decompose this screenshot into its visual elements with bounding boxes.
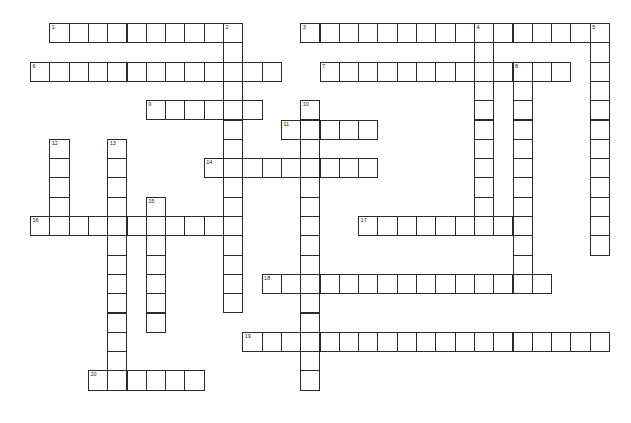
- crossword-cell[interactable]: [397, 332, 417, 352]
- crossword-cell[interactable]: [358, 23, 378, 43]
- crossword-cell[interactable]: [107, 274, 127, 294]
- crossword-cell[interactable]: [590, 62, 610, 82]
- crossword-cell[interactable]: [416, 274, 436, 294]
- crossword-cell[interactable]: [223, 139, 243, 159]
- crossword-cell[interactable]: [49, 62, 69, 82]
- crossword-cell[interactable]: [165, 370, 185, 390]
- crossword-cell[interactable]: [397, 23, 417, 43]
- crossword-cell[interactable]: [127, 370, 147, 390]
- crossword-cell[interactable]: [358, 120, 378, 140]
- crossword-cell[interactable]: [300, 255, 320, 275]
- crossword-cell[interactable]: [339, 23, 359, 43]
- crossword-cell[interactable]: [204, 62, 224, 82]
- crossword-cell[interactable]: 19: [242, 332, 262, 352]
- crossword-cell[interactable]: [513, 274, 533, 294]
- crossword-cell[interactable]: 16: [30, 216, 50, 236]
- crossword-cell[interactable]: [223, 158, 243, 178]
- crossword-cell[interactable]: [416, 332, 436, 352]
- crossword-cell[interactable]: [262, 158, 282, 178]
- crossword-cell[interactable]: 13: [107, 139, 127, 159]
- crossword-cell[interactable]: [532, 274, 552, 294]
- crossword-cell[interactable]: [474, 100, 494, 120]
- crossword-cell[interactable]: [532, 23, 552, 43]
- crossword-cell[interactable]: [435, 216, 455, 236]
- crossword-cell[interactable]: [88, 216, 108, 236]
- crossword-cell[interactable]: [107, 351, 127, 371]
- crossword-cell[interactable]: [590, 158, 610, 178]
- crossword-cell[interactable]: 12: [49, 139, 69, 159]
- crossword-cell[interactable]: [590, 216, 610, 236]
- crossword-cell[interactable]: [513, 332, 533, 352]
- crossword-cell[interactable]: [397, 62, 417, 82]
- crossword-cell[interactable]: [300, 216, 320, 236]
- crossword-cell[interactable]: [300, 274, 320, 294]
- crossword-cell[interactable]: [493, 62, 513, 82]
- crossword-cell[interactable]: [107, 370, 127, 390]
- crossword-cell[interactable]: [300, 332, 320, 352]
- crossword-cell[interactable]: [474, 216, 494, 236]
- crossword-cell[interactable]: [551, 23, 571, 43]
- crossword-cell[interactable]: [146, 313, 166, 333]
- crossword-cell[interactable]: [281, 274, 301, 294]
- crossword-cell[interactable]: [339, 274, 359, 294]
- crossword-cell[interactable]: [146, 370, 166, 390]
- crossword-cell[interactable]: [204, 100, 224, 120]
- crossword-cell[interactable]: [320, 23, 340, 43]
- crossword-cell[interactable]: [416, 23, 436, 43]
- crossword-cell[interactable]: [590, 81, 610, 101]
- crossword-cell[interactable]: [474, 81, 494, 101]
- crossword-cell[interactable]: [339, 332, 359, 352]
- crossword-cell[interactable]: [300, 235, 320, 255]
- crossword-cell[interactable]: [513, 197, 533, 217]
- crossword-cell[interactable]: [455, 62, 475, 82]
- crossword-cell[interactable]: [513, 139, 533, 159]
- crossword-cell[interactable]: [590, 139, 610, 159]
- crossword-cell[interactable]: [551, 62, 571, 82]
- crossword-cell[interactable]: [377, 23, 397, 43]
- crossword-cell[interactable]: [127, 62, 147, 82]
- crossword-cell[interactable]: [223, 177, 243, 197]
- crossword-cell[interactable]: [223, 62, 243, 82]
- crossword-cell[interactable]: [107, 23, 127, 43]
- crossword-cell[interactable]: [532, 62, 552, 82]
- crossword-cell[interactable]: [513, 158, 533, 178]
- crossword-cell[interactable]: [242, 100, 262, 120]
- crossword-cell[interactable]: [320, 120, 340, 140]
- crossword-cell[interactable]: [281, 332, 301, 352]
- crossword-cell[interactable]: [455, 23, 475, 43]
- crossword-cell[interactable]: [474, 274, 494, 294]
- crossword-cell[interactable]: [474, 42, 494, 62]
- crossword-cell[interactable]: [493, 274, 513, 294]
- crossword-cell[interactable]: [127, 216, 147, 236]
- crossword-cell[interactable]: [493, 23, 513, 43]
- crossword-cell[interactable]: [69, 62, 89, 82]
- crossword-cell[interactable]: [184, 23, 204, 43]
- crossword-cell[interactable]: [397, 216, 417, 236]
- crossword-cell[interactable]: [397, 274, 417, 294]
- crossword-cell[interactable]: 1: [49, 23, 69, 43]
- crossword-cell[interactable]: [300, 139, 320, 159]
- crossword-cell[interactable]: [570, 23, 590, 43]
- crossword-cell[interactable]: [590, 100, 610, 120]
- crossword-cell[interactable]: 14: [204, 158, 224, 178]
- crossword-cell[interactable]: [474, 62, 494, 82]
- crossword-cell[interactable]: [242, 158, 262, 178]
- crossword-cell[interactable]: [358, 274, 378, 294]
- crossword-cell[interactable]: [532, 332, 552, 352]
- crossword-cell[interactable]: 10: [300, 100, 320, 120]
- crossword-cell[interactable]: 20: [88, 370, 108, 390]
- crossword-cell[interactable]: [184, 62, 204, 82]
- crossword-cell[interactable]: [146, 255, 166, 275]
- crossword-cell[interactable]: [107, 235, 127, 255]
- crossword-cell[interactable]: [377, 274, 397, 294]
- crossword-cell[interactable]: [88, 62, 108, 82]
- crossword-cell[interactable]: [300, 370, 320, 390]
- crossword-cell[interactable]: [223, 81, 243, 101]
- crossword-cell[interactable]: [107, 62, 127, 82]
- crossword-cell[interactable]: [513, 216, 533, 236]
- crossword-cell[interactable]: [300, 293, 320, 313]
- crossword-cell[interactable]: 17: [358, 216, 378, 236]
- crossword-cell[interactable]: [300, 120, 320, 140]
- crossword-cell[interactable]: [165, 23, 185, 43]
- crossword-cell[interactable]: [455, 216, 475, 236]
